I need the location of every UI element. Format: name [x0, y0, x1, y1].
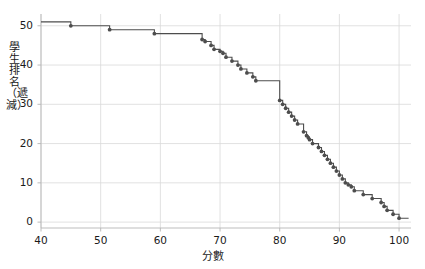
gridlines: [41, 14, 411, 228]
data-point-markers: [69, 24, 401, 220]
step-plot: [0, 0, 425, 269]
chart-figure: 學生排名（遞減） 分數 40506070809010001020304050: [0, 0, 425, 269]
axis-spines: [41, 14, 411, 228]
axis-ticks: [38, 26, 400, 232]
step-line: [41, 22, 409, 218]
